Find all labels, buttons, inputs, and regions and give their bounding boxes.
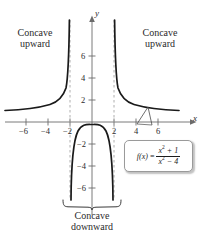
xtick-label-neg4: −4	[41, 126, 50, 136]
annotation-line-1: Concave	[57, 210, 127, 221]
annotation-concave-upward-left: Concave upward	[8, 27, 62, 49]
annotation-concave-upward-right: Concave upward	[131, 27, 189, 49]
x-axis-label: x	[193, 113, 197, 123]
ytick-label-2: 2	[81, 95, 85, 105]
formula-function-label: f(x)	[137, 152, 149, 161]
x-axis	[5, 119, 197, 126]
denominator-exponent: 2	[162, 155, 165, 161]
ytick-label-4: 4	[81, 73, 85, 83]
numerator-rest: + 1	[167, 146, 178, 155]
y-axis	[89, 16, 96, 216]
ytick-label-neg6: −6	[77, 183, 86, 193]
annotation-line-2: upward	[131, 38, 189, 49]
concavity-figure: y x −6 −4 −2 2 4 6 2 4 6 −2 −4 −6 Concav…	[0, 0, 205, 244]
annotation-concave-downward: Concave downward	[57, 210, 127, 232]
xtick-label-4: 4	[134, 126, 138, 136]
formula-numerator: x2 + 1	[156, 146, 180, 157]
formula-denominator: x2 − 4	[156, 157, 180, 167]
annotation-line-2: downward	[57, 221, 127, 232]
denominator-rest: − 4	[167, 157, 178, 166]
numerator-exponent: 2	[162, 144, 165, 150]
y-axis-label: y	[95, 8, 99, 18]
formula-callout-box: f(x) = x2 + 1 x2 − 4	[124, 140, 193, 172]
annotation-line-1: Concave	[8, 27, 62, 38]
xtick-label-neg2: −2	[63, 126, 72, 136]
xtick-label-neg6: −6	[19, 126, 28, 136]
formula-fraction: x2 + 1 x2 − 4	[156, 146, 180, 166]
formula-equals-sign: =	[149, 152, 157, 161]
ytick-label-neg2: −2	[77, 139, 86, 149]
xtick-label-6: 6	[156, 126, 160, 136]
annotation-line-1: Concave	[131, 27, 189, 38]
ytick-label-neg4: −4	[77, 161, 86, 171]
ytick-label-6: 6	[81, 51, 85, 61]
formula-expression: f(x) = x2 + 1 x2 − 4	[125, 141, 192, 171]
xtick-label-2: 2	[112, 126, 116, 136]
annotation-line-2: upward	[8, 38, 62, 49]
